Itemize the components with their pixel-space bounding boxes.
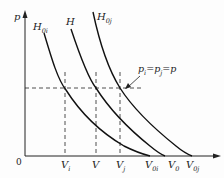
tick-vi: Vi (61, 160, 70, 173)
tick-vj: Vj (116, 160, 125, 173)
y-axis-label: p (14, 12, 20, 22)
curve-label-h0j: H0j (97, 12, 112, 25)
origin-label: 0 (16, 158, 22, 167)
curve-h0j (93, 12, 192, 156)
tick-v0j: V0j (186, 160, 199, 173)
tick-v0: V0 (168, 160, 179, 173)
curve-label-h0i: H0i (33, 22, 48, 35)
curve-label-h: H (66, 17, 75, 30)
tick-v0i: V0i (145, 160, 158, 173)
curve-h0i (44, 33, 150, 156)
x-axis-arrow-icon (213, 154, 221, 159)
curve-h (71, 29, 165, 156)
tick-v: V (92, 160, 99, 170)
annotation-label: pi=pj=p (138, 64, 176, 76)
annotation-leader (128, 76, 140, 87)
y-axis-arrow-icon (23, 10, 28, 18)
